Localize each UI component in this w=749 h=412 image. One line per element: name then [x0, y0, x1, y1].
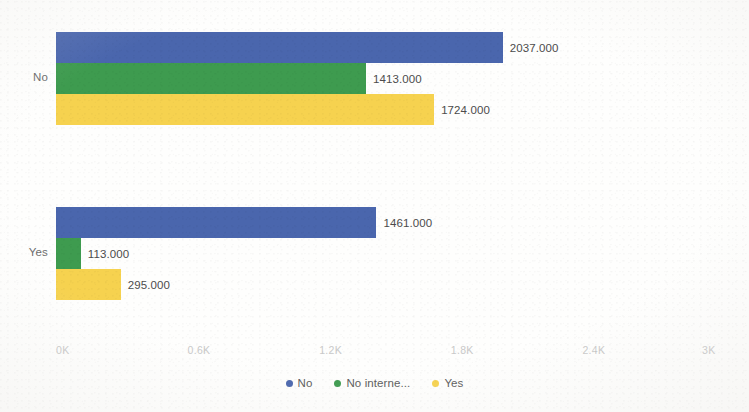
category-group-no[interactable]: No 2037.000 1413.000 1724.000 — [0, 32, 749, 125]
bar-segment-no[interactable] — [56, 32, 503, 63]
x-axis-tick-label: 1.2K — [319, 344, 342, 356]
category-group-yes[interactable]: Yes 1461.000 113.000 295.000 — [0, 207, 749, 300]
bar-segment-yes[interactable] — [56, 94, 434, 125]
category-label-yes: Yes — [0, 247, 48, 259]
x-axis-tick-label: 1.8K — [451, 344, 474, 356]
legend-item[interactable]: No — [286, 377, 313, 389]
legend[interactable]: NoNo interne...Yes — [0, 374, 749, 392]
plot-area: No 2037.000 1413.000 1724.000 Yes 1461.0… — [0, 0, 749, 338]
bar-value-label: 295.000 — [128, 279, 170, 291]
bar-row[interactable]: 1413.000 — [56, 63, 714, 94]
bar-segment-no-internet[interactable] — [56, 238, 81, 269]
bar-row[interactable]: 1724.000 — [56, 94, 714, 125]
bar-segment-no-internet[interactable] — [56, 63, 366, 94]
legend-label: No — [298, 377, 313, 389]
legend-item[interactable]: Yes — [432, 377, 463, 389]
bar-row[interactable]: 113.000 — [56, 238, 714, 269]
bar-row[interactable]: 1461.000 — [56, 207, 714, 238]
x-axis: 0K0.6K1.2K1.8K2.4K3K — [0, 344, 749, 362]
x-axis-tick-label: 0.6K — [188, 344, 211, 356]
x-axis-tick-label: 0K — [56, 344, 69, 356]
legend-label: Yes — [444, 377, 463, 389]
bar-value-label: 1413.000 — [373, 73, 422, 85]
bar-row[interactable]: 295.000 — [56, 269, 714, 300]
legend-swatch-icon — [432, 380, 439, 387]
x-axis-tick-label: 2.4K — [582, 344, 605, 356]
bar-chart[interactable]: No 2037.000 1413.000 1724.000 Yes 1461.0… — [0, 0, 749, 412]
x-axis-tick-label: 3K — [702, 344, 715, 356]
bar-segment-no[interactable] — [56, 207, 376, 238]
legend-swatch-icon — [334, 380, 341, 387]
category-label-no: No — [0, 72, 48, 84]
bar-value-label: 113.000 — [88, 248, 129, 260]
bar-segment-yes[interactable] — [56, 269, 121, 300]
legend-label: No interne... — [346, 377, 410, 389]
bar-value-label: 2037.000 — [510, 42, 559, 54]
bar-value-label: 1724.000 — [441, 104, 490, 116]
bar-row[interactable]: 2037.000 — [56, 32, 714, 63]
legend-swatch-icon — [286, 380, 293, 387]
bar-value-label: 1461.000 — [383, 217, 432, 229]
legend-item[interactable]: No interne... — [334, 377, 410, 389]
